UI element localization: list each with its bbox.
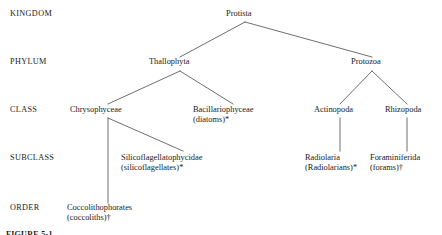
taxon-radiolaria-common: (Radiolarians)* xyxy=(305,163,357,173)
taxon-actinopoda: Actinopoda xyxy=(314,105,353,115)
taxon-protozoa: Protozoa xyxy=(351,57,381,67)
edge-chrysophyceae-silicoflagellatophycidae xyxy=(108,118,183,151)
edge-protozoa-actinopoda xyxy=(340,71,372,104)
taxon-chrysophyceae-name: Chrysophyceae xyxy=(70,105,122,114)
taxon-coccolithophorates-common: (coccoliths)† xyxy=(67,213,132,223)
taxonomy-diagram: KINGDOM PHYLUM CLASS SUBCLASS ORDER Prot… xyxy=(0,0,442,235)
taxon-foraminiferida: Foraminiferida (forams)† xyxy=(370,153,420,173)
taxon-chrysophyceae: Chrysophyceae xyxy=(70,105,122,115)
taxon-thallophyta: Thallophyta xyxy=(149,57,189,67)
taxon-actinopoda-name: Actinopoda xyxy=(314,105,353,114)
taxon-silicoflagellatophycidae: Silicoflagellatophycidae (silicoflagella… xyxy=(121,153,202,173)
taxon-coccolithophorates-name: Coccolithophorates xyxy=(67,203,132,212)
taxon-protista-name: Protista xyxy=(226,9,252,18)
taxon-rhizopoda: Rhizopoda xyxy=(385,105,421,115)
taxon-protista: Protista xyxy=(226,9,252,19)
taxon-foraminiferida-common: (forams)† xyxy=(370,163,420,173)
edge-protozoa-rhizopoda xyxy=(372,71,407,104)
rank-label-order: ORDER xyxy=(10,203,40,212)
taxon-silicoflagellatophycidae-name: Silicoflagellatophycidae xyxy=(121,153,202,162)
edge-protista-thallophyta xyxy=(180,22,245,57)
taxon-thallophyta-name: Thallophyta xyxy=(149,57,189,66)
figure-caption: FIGURE 5-1 xyxy=(6,230,53,235)
edge-thallophyta-bacillariophyceae xyxy=(180,71,233,104)
taxon-coccolithophorates: Coccolithophorates (coccoliths)† xyxy=(67,203,132,223)
edge-protista-protozoa xyxy=(245,22,372,57)
taxon-silicoflagellatophycidae-common: (silicoflagellates)* xyxy=(121,163,202,173)
taxon-rhizopoda-name: Rhizopoda xyxy=(385,105,421,114)
taxon-foraminiferida-name: Foraminiferida xyxy=(370,153,420,162)
edge-thallophyta-chrysophyceae xyxy=(108,71,180,104)
rank-label-kingdom: KINGDOM xyxy=(10,9,52,18)
taxon-bacillariophyceae-common: (diatoms)* xyxy=(193,115,253,125)
rank-label-subclass: SUBCLASS xyxy=(10,153,54,162)
rank-label-phylum: PHYLUM xyxy=(10,57,47,66)
taxon-bacillariophyceae-name: Bacillariophyceae xyxy=(193,105,253,114)
taxon-radiolaria: Radiolaria (Radiolarians)* xyxy=(305,153,357,173)
rank-label-class: CLASS xyxy=(10,105,37,114)
taxon-protozoa-name: Protozoa xyxy=(351,57,381,66)
taxon-radiolaria-name: Radiolaria xyxy=(305,153,340,162)
taxon-bacillariophyceae: Bacillariophyceae (diatoms)* xyxy=(193,105,253,125)
